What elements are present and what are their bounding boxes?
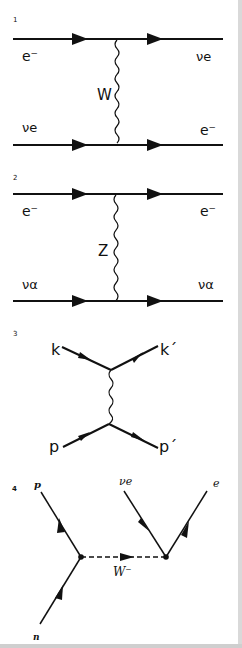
arrow-icon [72,188,88,200]
boson-propagator-wavy [115,40,119,143]
arrow-icon [131,432,145,441]
particle-label-bottom-in: p [49,437,59,456]
particle-label-bottom-in: νe [22,120,37,135]
arrow-icon [78,352,91,360]
arrow-icon [55,585,63,600]
vertex-dot [78,554,84,560]
arrow-icon [147,139,163,151]
diagram-number: 4 [12,485,17,493]
particle-label-top-out: k´ [160,340,177,359]
diagram-number: 3 [13,330,17,338]
particle-label-bottom-out: να [198,277,214,292]
particle-label-left-in: n [33,632,40,642]
particle-label-top-out: e⁻ [200,203,216,219]
boson-propagator-wavy [109,370,113,424]
diagram-2: 2 e⁻ e⁻ Z να να [13,174,223,307]
diagram-3: 3 k k´ p p´ [13,330,177,456]
diagram-1: 1 e⁻ νe W νe e⁻ [13,16,223,151]
scrollbar-track[interactable] [238,0,242,648]
arrow-icon [181,521,189,538]
particle-label-right-out: e [213,477,220,490]
arrow-icon [138,518,149,531]
boson-label: W [97,86,112,104]
feynman-diagrams: 1 e⁻ νe W νe e⁻ 2 e⁻ e⁻ Z να να 3 [0,0,242,648]
vertex-dot [163,554,169,560]
particle-label-right-in: νe [119,475,133,488]
particle-label-bottom-out: e⁻ [200,122,216,138]
arrow-icon [147,295,163,307]
arrow-icon [72,33,88,45]
arrow-icon [147,188,163,200]
boson-label: W⁻ [113,565,132,579]
arrow-icon [72,139,88,151]
particle-label-top-in: e⁻ [22,203,38,219]
particle-label-top-in: k [51,340,61,359]
particle-label-bottom-out: p´ [159,437,177,456]
particle-label-bottom-in: να [22,277,38,292]
bottom-border [0,644,242,648]
diagram-number: 2 [13,174,17,182]
diagram-number: 1 [13,16,17,24]
arrow-icon [147,33,163,45]
arrow-icon [120,553,134,561]
boson-label: Z [98,242,108,260]
fermion-line-e [166,491,207,557]
fermion-line-nu-e [124,491,166,557]
particle-label-top-out: νe [196,49,211,64]
particle-label-left-out: p [34,479,41,490]
boson-propagator-wavy [114,195,118,301]
diagram-4: 4 p n νe e W⁻ [12,475,220,642]
particle-label-top-in: e⁻ [22,48,38,64]
arrow-icon [72,295,88,307]
